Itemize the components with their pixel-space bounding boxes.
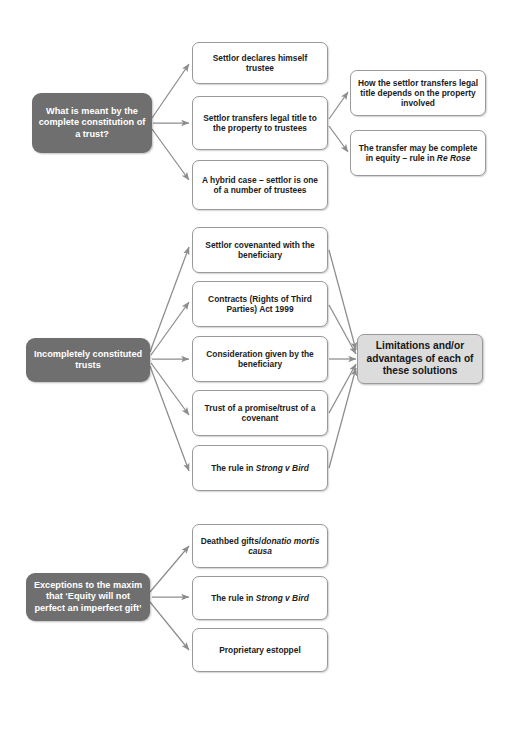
node-rule-in-strong-v-bird-section3[interactable]: The rule in Strong v Bird [192,576,328,620]
root-node-complete-constitution-label: What is meant by the complete constituti… [37,106,147,140]
node-transfer-complete-in-equity-re-rose[interactable]: The transfer may be complete in equity –… [350,130,486,176]
node-contracts-rights-of-third-parties-act-1999[interactable]: Contracts (Rights of Third Parties) Act … [192,281,328,327]
diagram-canvas: What is meant by the complete constituti… [0,0,508,730]
node-limitations-and-advantages-label: Limitations and/or advantages of each of… [363,340,477,377]
case-name-re-rose: Re Rose [437,153,471,163]
node-deathbed-gifts-donatio-mortis-causa-label: Deathbed gifts/donatio mortis causa [198,536,322,557]
node-transfer-complete-in-equity-re-rose-label: The transfer may be complete in equity –… [356,143,480,164]
root-node-incompletely-constituted-trusts-label: Incompletely constituted trusts [31,349,145,371]
node-hybrid-case-settlor-one-of-trustees-label: A hybrid case – settlor is one of a numb… [198,175,322,196]
deathbed-gifts-prefix: Deathbed gifts/ [201,536,262,546]
node-consideration-given-by-beneficiary[interactable]: Consideration given by the beneficiary [192,336,328,382]
node-limitations-and-advantages[interactable]: Limitations and/or advantages of each of… [357,334,483,384]
node-settlor-covenanted-with-beneficiary-label: Settlor covenanted with the beneficiary [198,240,322,261]
node-settlor-declares-himself-trustee[interactable]: Settlor declares himself trustee [192,42,328,84]
node-settlor-covenanted-with-beneficiary[interactable]: Settlor covenanted with the beneficiary [192,227,328,273]
node-settlor-declares-himself-trustee-label: Settlor declares himself trustee [198,53,322,74]
connectors-section-3 [150,546,189,650]
node-settlor-transfers-legal-title[interactable]: Settlor transfers legal title to the pro… [192,96,328,150]
node-deathbed-gifts-donatio-mortis-causa[interactable]: Deathbed gifts/donatio mortis causa [192,524,328,568]
node-how-settlor-transfers-legal-title[interactable]: How the settlor transfers legal title de… [350,70,486,116]
node-trust-of-a-promise-or-covenant[interactable]: Trust of a promise/trust of a covenant [192,390,328,436]
node-rule-in-strong-v-bird-section3-label: The rule in Strong v Bird [198,593,322,603]
node-proprietary-estoppel-label: Proprietary estoppel [198,645,322,655]
strong-v-bird-prefix-3: The rule in [211,593,256,603]
node-hybrid-case-settlor-one-of-trustees[interactable]: A hybrid case – settlor is one of a numb… [192,160,328,210]
strong-v-bird-prefix-2: The rule in [211,463,256,473]
case-name-strong-v-bird-2: Strong v Bird [256,463,309,473]
root-node-exceptions-to-maxim[interactable]: Exceptions to the maxim that ‘Equity wil… [26,573,150,621]
case-name-strong-v-bird-3: Strong v Bird [256,593,309,603]
node-consideration-given-by-beneficiary-label: Consideration given by the beneficiary [198,349,322,370]
node-rule-in-strong-v-bird-section2-label: The rule in Strong v Bird [198,463,322,473]
root-node-complete-constitution[interactable]: What is meant by the complete constituti… [32,93,152,153]
node-settlor-transfers-legal-title-label: Settlor transfers legal title to the pro… [198,113,322,134]
node-contracts-rights-of-third-parties-act-1999-label: Contracts (Rights of Third Parties) Act … [198,294,322,315]
node-how-settlor-transfers-legal-title-label: How the settlor transfers legal title de… [356,78,480,109]
root-node-exceptions-to-maxim-label: Exceptions to the maxim that ‘Equity wil… [31,580,145,614]
node-proprietary-estoppel[interactable]: Proprietary estoppel [192,628,328,672]
node-rule-in-strong-v-bird-section2[interactable]: The rule in Strong v Bird [192,445,328,491]
root-node-incompletely-constituted-trusts[interactable]: Incompletely constituted trusts [26,338,150,382]
node-trust-of-a-promise-or-covenant-label: Trust of a promise/trust of a covenant [198,403,322,424]
